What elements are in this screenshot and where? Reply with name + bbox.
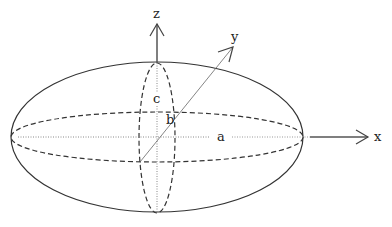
z-axis-label: z: [153, 6, 160, 21]
x-axis-label: x: [374, 129, 382, 144]
semi-axis-c-label: c: [153, 91, 160, 106]
semi-axis-a-label: a: [217, 129, 225, 144]
y-axis-label: y: [230, 29, 239, 44]
semi-axis-b-label: b: [166, 112, 174, 127]
ellipsoid-diagram: y z x c b a: [0, 0, 392, 227]
